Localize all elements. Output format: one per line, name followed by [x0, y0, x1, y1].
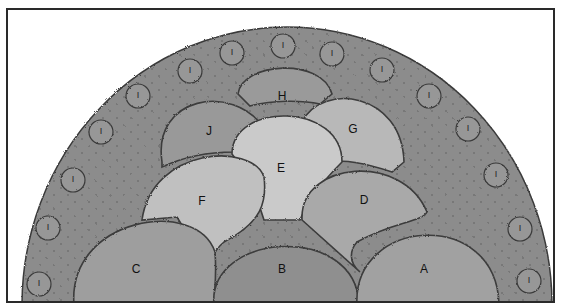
planting-plan-svg: C B A F D E J G H I I I — [8, 10, 555, 303]
label-I: I — [495, 169, 498, 179]
label-I: I — [381, 64, 384, 74]
label-I: I — [528, 275, 531, 285]
label-I: I — [428, 90, 431, 100]
label-H: H — [278, 89, 287, 103]
label-B: B — [278, 262, 286, 276]
label-I: I — [331, 48, 334, 58]
label-A: A — [420, 262, 428, 276]
label-I: I — [137, 90, 140, 100]
label-E: E — [277, 161, 285, 175]
label-G: G — [348, 122, 357, 136]
label-C: C — [132, 262, 141, 276]
label-J: J — [206, 124, 212, 138]
label-I: I — [47, 222, 50, 232]
label-I: I — [100, 126, 103, 136]
label-I: I — [72, 174, 75, 184]
label-D: D — [360, 193, 369, 207]
diagram-frame: C B A F D E J G H I I I — [6, 8, 555, 303]
label-I: I — [189, 65, 192, 75]
label-I: I — [519, 223, 522, 233]
label-I: I — [38, 278, 41, 288]
label-I: I — [231, 47, 234, 57]
label-I: I — [467, 123, 470, 133]
label-F: F — [198, 194, 205, 208]
label-I: I — [282, 40, 285, 50]
